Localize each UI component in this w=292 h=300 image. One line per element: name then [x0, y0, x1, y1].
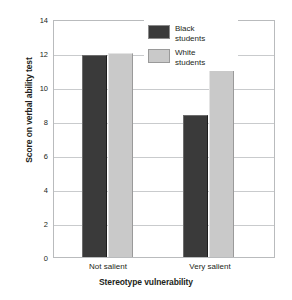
- legend-label-line2: students: [175, 58, 205, 68]
- x-tick-label-very-salient: Very salient: [155, 262, 265, 271]
- y-tick-label: 12: [10, 50, 48, 59]
- y-tick-label: 0: [10, 254, 48, 263]
- legend-label-line1: White: [175, 48, 205, 58]
- y-tick-label: 8: [10, 118, 48, 127]
- x-axis-title: Stereotype vulnerability: [0, 277, 292, 287]
- legend-label-black-students: Black students: [175, 24, 205, 43]
- legend-label-line2: students: [175, 34, 205, 44]
- y-tick-label: 14: [10, 16, 48, 25]
- y-tick-label: 4: [10, 186, 48, 195]
- y-tick-label: 6: [10, 152, 48, 161]
- bar-white-students-very-salient: [209, 55, 234, 257]
- legend-entry-white-students: White students: [148, 48, 235, 67]
- bar-black-students-very-salient: [183, 115, 208, 257]
- legend-entry-black-students: Black students: [148, 24, 235, 43]
- x-tick-label-not-salient: Not salient: [53, 262, 163, 271]
- legend: Black students White students: [144, 20, 238, 71]
- y-tick-label: 2: [10, 220, 48, 229]
- bar-black-students-not-salient: [82, 55, 107, 257]
- legend-label-white-students: White students: [175, 48, 205, 67]
- bar-chart-figure: Score on verbal ability test 14 12 10 8 …: [0, 0, 292, 300]
- legend-label-line1: Black: [175, 24, 205, 34]
- dark-swatch-icon: [148, 25, 170, 39]
- bar-white-students-not-salient: [108, 53, 133, 257]
- light-swatch-icon: [148, 49, 170, 63]
- y-tick-label: 10: [10, 84, 48, 93]
